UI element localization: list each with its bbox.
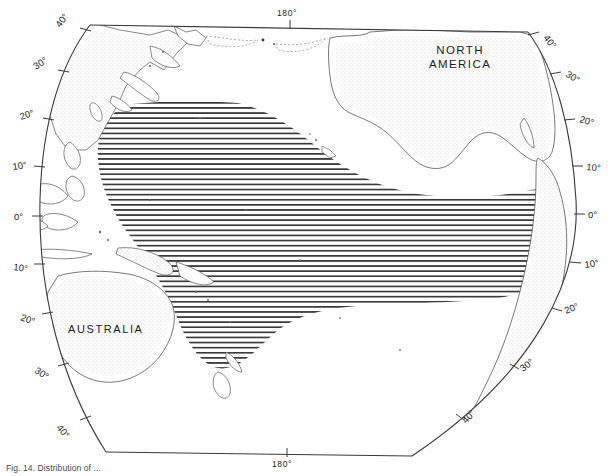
island-dot	[245, 209, 247, 211]
island-dot	[273, 43, 275, 45]
island-dot	[167, 209, 169, 211]
island-dot	[149, 199, 151, 201]
longitude-label-bottom: 180°	[272, 459, 292, 469]
lat-label-left-30s: 30°	[33, 365, 51, 382]
tick-right-20s	[552, 308, 562, 311]
island-dot	[262, 39, 265, 42]
island-dot	[315, 139, 317, 141]
island-dot	[99, 231, 101, 233]
island-dot	[339, 317, 341, 319]
tick-right-20n	[564, 119, 575, 120]
lat-label-left-20s: 20°	[19, 312, 36, 327]
lat-label-left-40s: 40°	[54, 422, 72, 440]
longitude-label-top: 180°	[277, 8, 297, 18]
lat-label-right-10n: 10°	[586, 161, 602, 173]
lat-label-left-10n: 10°	[12, 159, 28, 172]
island-dot	[207, 299, 209, 301]
island-dot	[229, 321, 231, 323]
figure-page: 40° 30° 20° 10° 0° 10° 20° 30° 40° 40° 3…	[0, 0, 608, 476]
map-interior	[0, 0, 608, 476]
continent-label-australia: AUSTRALIA	[68, 323, 144, 335]
continent-label-north-america-line1: NORTH	[429, 43, 491, 57]
lat-label-left-40n: 40°	[53, 11, 71, 29]
pacific-distribution-map: 40° 30° 20° 10° 0° 10° 20° 30° 40° 40° 3…	[0, 0, 608, 476]
island-dot	[399, 349, 401, 351]
tick-right-30n	[550, 72, 561, 74]
island-dot	[199, 117, 201, 119]
lat-label-right-30n: 30°	[564, 68, 582, 85]
lat-label-left-30n: 30°	[31, 54, 49, 71]
map-canvas: 40° 30° 20° 10° 0° 10° 20° 30° 40° 40° 3…	[0, 0, 608, 476]
island-dot	[309, 133, 311, 135]
figure-caption: Fig. 14. Distribution of ...	[6, 463, 101, 473]
lat-label-right-40n: 40°	[541, 32, 559, 50]
continent-label-north-america-line2: AMERICA	[429, 57, 491, 71]
lat-label-right-10s: 10°	[584, 257, 600, 270]
island-dot	[299, 259, 301, 261]
lat-label-right-20n: 20°	[578, 113, 595, 128]
continent-label-north-america: NORTH AMERICA	[429, 43, 491, 71]
lat-label-left-10s: 10°	[13, 261, 29, 274]
lat-label-right-20s: 20°	[563, 300, 581, 316]
island-dot	[107, 239, 109, 241]
lat-label-left-0: 0°	[14, 211, 23, 222]
island-dot	[162, 51, 164, 53]
tick-right-10s	[570, 262, 581, 263]
lat-label-right-0: 0°	[588, 209, 597, 220]
island-dot	[149, 65, 151, 67]
island-dot	[195, 291, 197, 293]
lat-label-left-20n: 20°	[18, 107, 35, 122]
